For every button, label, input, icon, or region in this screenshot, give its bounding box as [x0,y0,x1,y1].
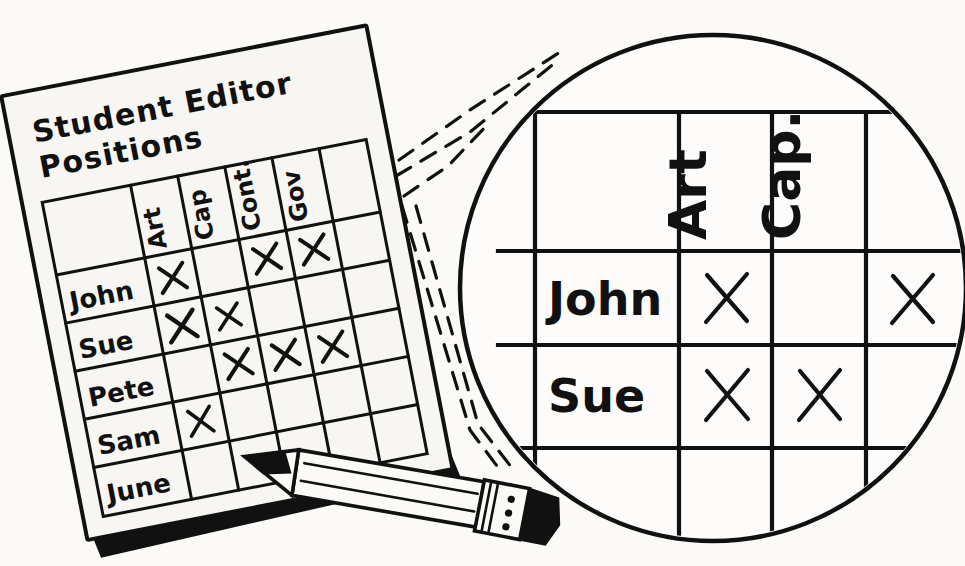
pencil-ferrule-rivet-1 [508,496,514,502]
cone-line-bottom [404,122,490,196]
illustration-canvas: Student Editor Positions Art Cap Cont. G… [0,0,965,566]
scene-svg: Student Editor Positions Art Cap Cont. G… [0,0,965,566]
mag-col-header-art: Art [658,149,718,240]
pencil-ferrule-rivet-2 [506,510,512,516]
mag-row-label-sue: Sue [548,369,645,423]
mag-row-label-john: John [545,272,662,326]
mag-col-header-cap: Cap. [752,110,812,240]
pencil-ferrule-rivet-3 [503,524,509,530]
magnifier-lens: Art Cap. John Sue [460,35,965,545]
